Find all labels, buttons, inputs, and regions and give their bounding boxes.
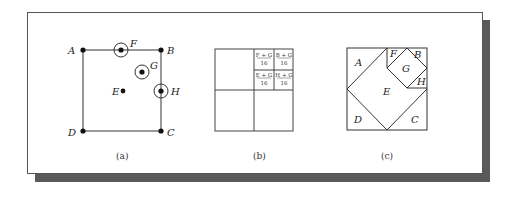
frac-hg-den: 16 [281,80,288,86]
frac-eg-num: E + G [256,72,273,78]
point-h [158,88,163,93]
label-f: F [129,38,138,49]
frac-fg-den: 16 [261,60,268,66]
caption-a: (a) [116,151,128,161]
region-a: A [354,57,362,68]
label-a: A [67,45,75,56]
label-g: G [150,60,158,71]
caption-b: (b) [253,151,266,161]
label-d: D [67,127,76,138]
point-e [121,89,126,94]
region-c: C [411,114,419,125]
label-h: H [170,86,180,97]
region-b: B [413,49,421,60]
frac-bg-num: B + G [276,52,293,58]
point-g [139,69,144,74]
point-c [158,128,163,133]
frac-fg-num: F + G [256,52,272,58]
region-e: E [382,86,391,97]
region-h: H [416,76,426,87]
label-c: C [167,127,175,138]
point-f [118,47,123,52]
figure-canvas: A B C D E F G H (a) F + G 16 B + G 16 E … [0,0,515,199]
caption-c: (c) [381,151,393,161]
frac-eg-den: 16 [261,80,268,86]
label-b: B [166,45,174,56]
frac-hg-num: H + G [275,72,292,78]
region-d: D [353,114,362,125]
region-g: G [402,63,410,74]
point-d [80,128,85,133]
label-e: E [111,86,120,97]
frac-bg-den: 16 [281,60,288,66]
point-a [80,47,85,52]
point-b [158,47,163,52]
region-f: F [389,48,398,59]
panel-a [83,43,168,131]
